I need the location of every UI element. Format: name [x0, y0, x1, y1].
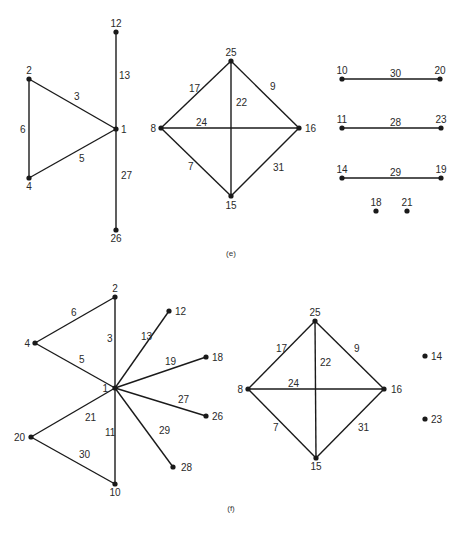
vertex-12 — [166, 308, 171, 313]
vertex-26 — [113, 227, 118, 232]
vertex-label: 20 — [14, 432, 26, 443]
edge-9 — [231, 61, 299, 128]
vertex-label: 8 — [150, 123, 156, 134]
vertex-4 — [26, 175, 31, 180]
vertex-19 — [438, 175, 443, 180]
edge-label: 5 — [79, 153, 85, 164]
vertex-20 — [28, 434, 33, 439]
edge-label: 3 — [74, 91, 80, 102]
vertex-2 — [112, 294, 117, 299]
vertex-label: 15 — [225, 200, 237, 211]
vertex-label: 8 — [237, 384, 243, 395]
vertex-label: 20 — [434, 65, 446, 76]
vertex-18 — [203, 354, 208, 359]
edge-3 — [29, 79, 116, 129]
vertex-15 — [313, 455, 318, 460]
vertex-23 — [422, 416, 427, 421]
vertex-label: 2 — [26, 65, 32, 76]
vertex-2 — [26, 76, 31, 81]
vertex-label: 18 — [212, 352, 224, 363]
edge-label: 17 — [189, 83, 201, 94]
edge-7 — [248, 389, 316, 458]
edge-label: 11 — [105, 427, 116, 438]
edge-17 — [248, 321, 315, 389]
vertex-20 — [437, 76, 442, 81]
edge-label: 29 — [159, 425, 171, 436]
edge-9 — [315, 321, 384, 389]
vertex-16 — [296, 125, 301, 130]
edge-label: 9 — [354, 343, 360, 354]
vertex-label: 11 — [337, 114, 348, 125]
vertex-label: 4 — [24, 338, 30, 349]
edge-label: 13 — [141, 331, 153, 342]
vertex-label: 23 — [435, 114, 447, 125]
vertex-label: 16 — [391, 384, 403, 395]
panel-caption: (f) — [227, 504, 235, 513]
vertex-12 — [113, 29, 118, 34]
vertex-1 — [112, 385, 117, 390]
vertex-23 — [438, 125, 443, 130]
edge-label: 30 — [390, 68, 402, 79]
edge-label: 27 — [121, 170, 133, 181]
edge-label: 19 — [165, 356, 177, 367]
vertex-label: 28 — [181, 462, 193, 473]
edge-7 — [161, 128, 231, 196]
edge-21 — [31, 388, 115, 437]
edge-27 — [115, 388, 206, 416]
vertex-28 — [170, 464, 175, 469]
vertex-21 — [404, 208, 409, 213]
edge-5 — [29, 129, 116, 178]
edge-label: 6 — [71, 307, 77, 318]
vertex-label: 26 — [110, 233, 122, 244]
edge-label: 24 — [196, 117, 208, 128]
vertex-label: 25 — [309, 307, 321, 318]
vertex-25 — [312, 318, 317, 323]
vertex-label: 2 — [112, 283, 118, 294]
edge-label: 17 — [276, 343, 288, 354]
edge-label: 7 — [273, 422, 279, 433]
vertex-11 — [339, 125, 344, 130]
vertex-14 — [422, 353, 427, 358]
vertex-label: 12 — [110, 18, 122, 29]
graph-diagram: 1336527179222473130282912214262581615102… — [0, 0, 461, 533]
vertex-10 — [339, 76, 344, 81]
vertex-14 — [339, 175, 344, 180]
vertex-label: 26 — [212, 411, 224, 422]
edge-6 — [35, 297, 115, 343]
vertex-18 — [373, 208, 378, 213]
vertex-label: 16 — [305, 123, 317, 134]
vertex-label: 14 — [336, 164, 348, 175]
edge-label: 21 — [85, 412, 97, 423]
panel-e: 1336527179222473130282912214262581615102… — [20, 18, 447, 258]
edge-5 — [35, 343, 115, 388]
edge-label: 29 — [390, 167, 402, 178]
vertex-label: 14 — [431, 351, 443, 362]
vertex-16 — [381, 386, 386, 391]
edge-13 — [115, 311, 169, 388]
vertex-label: 1 — [102, 383, 108, 394]
vertex-label: 25 — [225, 47, 237, 58]
edge-31 — [316, 389, 384, 458]
edge-label: 22 — [236, 97, 248, 108]
edge-label: 31 — [273, 162, 285, 173]
vertex-26 — [203, 413, 208, 418]
vertex-label: 23 — [431, 414, 443, 425]
vertex-label: 12 — [175, 306, 187, 317]
vertex-1 — [113, 126, 118, 131]
vertex-label: 18 — [370, 197, 382, 208]
vertex-label: 10 — [336, 65, 348, 76]
edge-label: 9 — [270, 81, 276, 92]
edge-label: 30 — [79, 449, 91, 460]
vertex-4 — [32, 340, 37, 345]
vertex-label: 21 — [401, 197, 413, 208]
vertex-8 — [158, 125, 163, 130]
edge-label: 24 — [288, 378, 300, 389]
edge-label: 31 — [358, 422, 370, 433]
edge-label: 27 — [178, 394, 190, 405]
edge-label: 5 — [79, 354, 85, 365]
edge-label: 13 — [119, 70, 131, 81]
edge-19 — [115, 357, 206, 388]
vertex-label: 4 — [26, 181, 32, 192]
edge-label: 28 — [390, 117, 402, 128]
vertex-25 — [228, 58, 233, 63]
